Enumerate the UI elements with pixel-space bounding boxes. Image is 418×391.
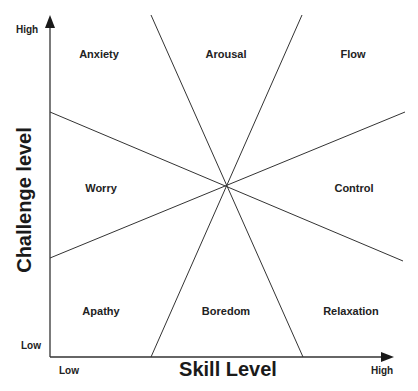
- region-control: Control: [334, 182, 373, 194]
- y-low-label: Low: [21, 340, 41, 351]
- region-worry: Worry: [85, 182, 117, 194]
- region-anxiety: Anxiety: [79, 48, 119, 60]
- region-boredom: Boredom: [202, 305, 250, 317]
- x-low-label: Low: [59, 365, 79, 376]
- region-apathy: Apathy: [82, 305, 119, 317]
- y-axis-title: Challenge level: [13, 127, 36, 273]
- x-axis-arrow-icon: [381, 352, 394, 362]
- x-axis-title: Skill Level: [179, 358, 277, 381]
- region-flow: Flow: [340, 48, 365, 60]
- y-high-label: High: [16, 24, 38, 35]
- region-arousal: Arousal: [206, 48, 247, 60]
- y-axis-arrow-icon: [45, 15, 55, 28]
- region-relaxation: Relaxation: [323, 305, 379, 317]
- x-high-label: High: [371, 365, 393, 376]
